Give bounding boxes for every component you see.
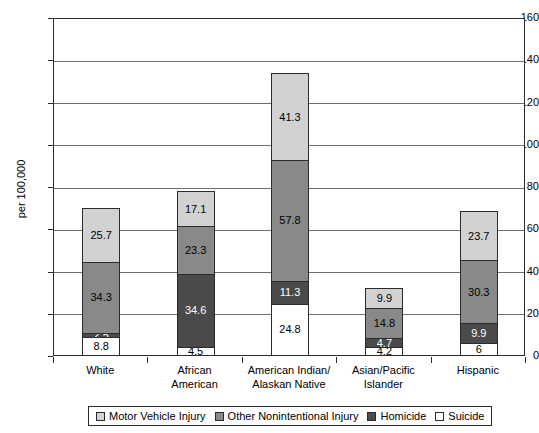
x-tick-mark — [53, 357, 54, 363]
bar-segment-value: 6 — [476, 344, 482, 355]
bar-segment[interactable]: 8.8 — [82, 337, 120, 356]
bar-segment[interactable]: 34.6 — [177, 274, 215, 347]
legend-swatch-icon — [435, 412, 444, 421]
bar-segment[interactable]: 14.8 — [365, 308, 403, 339]
bar-segment[interactable]: 23.7 — [460, 211, 498, 261]
bar-segment-value: 24.8 — [279, 324, 300, 335]
bar-segment[interactable]: 9.9 — [460, 323, 498, 344]
x-tick-mark — [336, 357, 337, 363]
gridline-140 — [54, 61, 524, 62]
bar-segment[interactable]: 9.9 — [365, 288, 403, 309]
bar-segment-value: 30.3 — [468, 287, 489, 298]
bar-segment[interactable]: 34.3 — [82, 262, 120, 334]
bar-segment[interactable]: 4.2 — [365, 347, 403, 356]
bar-segment-value: 34.3 — [90, 292, 111, 303]
bar-segment-value: 11.3 — [280, 287, 301, 298]
legend-label: Other Nonintentional Injury — [228, 411, 359, 422]
bar-segment[interactable]: 24.8 — [271, 304, 309, 356]
stacked-bar-chart: per 100,000 020406080100120140160 25.734… — [0, 0, 539, 433]
bar-segment-value: 25.7 — [90, 230, 111, 241]
plot-area: 25.734.32.58.817.123.334.64.541.357.811.… — [53, 18, 525, 356]
legend-label: Homicide — [380, 411, 426, 422]
bar-segment[interactable]: 6 — [460, 343, 498, 356]
bar-stack[interactable]: 17.123.334.64.5 — [177, 191, 215, 355]
bar-segment[interactable]: 11.3 — [271, 281, 309, 305]
bar-stack[interactable]: 25.734.32.58.8 — [82, 208, 120, 355]
bar-segment[interactable]: 41.3 — [271, 73, 309, 160]
x-axis-category-label-line: Islander — [328, 377, 438, 391]
x-tick-mark — [147, 357, 148, 363]
bar-segment-value: 23.7 — [468, 231, 489, 242]
bar-segment[interactable]: 57.8 — [271, 160, 309, 282]
bar-segment-value: 17.1 — [185, 204, 206, 215]
bar-segment-value: 9.9 — [471, 328, 486, 339]
bar-segment-value: 34.6 — [185, 305, 206, 316]
bar-segment-value: 14.8 — [374, 318, 395, 329]
bar-segment[interactable]: 30.3 — [460, 260, 498, 324]
bar-segment[interactable]: 17.1 — [177, 191, 215, 227]
bar-stack[interactable]: 23.730.39.96 — [460, 211, 498, 355]
bar-stack[interactable]: 9.914.84.74.2 — [365, 288, 403, 355]
x-axis-category-label-line: Hispanic — [423, 363, 533, 377]
x-axis-category-label: Hispanic — [423, 363, 533, 377]
bar-segment-value: 41.3 — [279, 112, 300, 123]
bar-stack[interactable]: 41.357.811.324.8 — [271, 73, 309, 355]
legend-item[interactable]: Suicide — [435, 411, 484, 422]
bar-segment[interactable]: 4.5 — [177, 347, 215, 357]
legend-item[interactable]: Motor Vehicle Injury — [96, 411, 206, 422]
legend-swatch-icon — [367, 412, 376, 421]
y-axis-title: per 100,000 — [15, 129, 27, 249]
bar-segment-value: 4.2 — [377, 347, 392, 356]
x-tick-mark — [242, 357, 243, 363]
bar-segment-value: 8.8 — [94, 341, 109, 352]
x-tick-mark — [431, 357, 432, 363]
legend-swatch-icon — [215, 412, 224, 421]
legend-label: Motor Vehicle Injury — [109, 411, 206, 422]
chart-legend: Motor Vehicle InjuryOther Nonintentional… — [88, 406, 492, 426]
x-tick-mark — [525, 357, 526, 363]
bar-segment-value: 4.5 — [188, 347, 203, 357]
legend-swatch-icon — [96, 412, 105, 421]
bar-segment[interactable]: 23.3 — [177, 226, 215, 275]
bar-segment-value: 9.9 — [377, 293, 392, 304]
legend-label: Suicide — [448, 411, 484, 422]
legend-item[interactable]: Other Nonintentional Injury — [215, 411, 359, 422]
legend-item[interactable]: Homicide — [367, 411, 426, 422]
bar-segment-value: 23.3 — [185, 245, 206, 256]
bar-segment[interactable]: 25.7 — [82, 208, 120, 262]
bar-segment-value: 57.8 — [279, 215, 300, 226]
